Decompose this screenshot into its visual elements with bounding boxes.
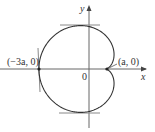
cardioid-diagram: y x 0 (−3a, 0) (a, 0) (0, 0, 155, 132)
y-axis-arrow-icon (87, 5, 92, 11)
x-axis-label: x (140, 71, 146, 82)
cusp-point-label: (a, 0) (118, 56, 139, 68)
cusp-point-marker (105, 67, 108, 70)
left-point-label: (−3a, 0) (7, 56, 39, 68)
origin-label: 0 (82, 71, 87, 82)
left-point-marker (37, 67, 40, 70)
y-axis-label: y (79, 3, 85, 14)
